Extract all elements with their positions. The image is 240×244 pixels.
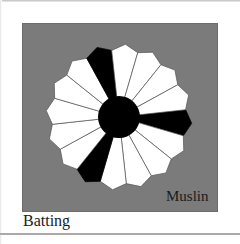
center-circle	[98, 96, 140, 138]
muslin-label: Muslin	[166, 188, 209, 205]
batting-label: Batting	[23, 212, 70, 230]
dresden-plate	[0, 0, 240, 244]
paper-bottom-edge	[0, 233, 240, 235]
